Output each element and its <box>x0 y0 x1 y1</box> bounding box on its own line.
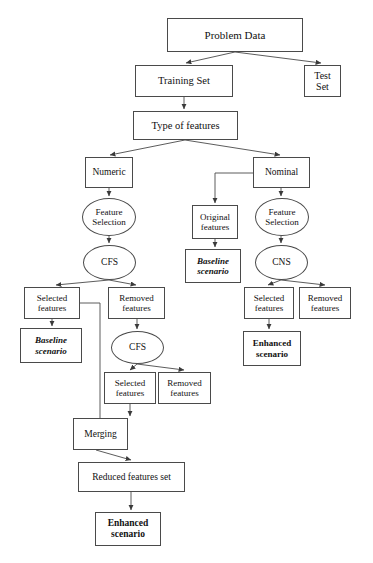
node-label-rem_feat_cfs2: Removedfeatures <box>165 378 204 398</box>
node-label-rem_feat_cns: Removedfeatures <box>306 293 345 313</box>
node-rem_feat_cns: Removedfeatures <box>299 287 351 319</box>
node-merging: Merging <box>73 418 128 450</box>
node-label-fs_numeric: FeatureSelection <box>90 207 128 227</box>
node-label-baseline_nominal: Baselinescenario <box>195 256 231 276</box>
edge-cns-to-removed <box>281 280 325 285</box>
node-label-reduced_features: Reduced features set <box>90 472 173 483</box>
node-label-nominal: Nominal <box>263 167 300 178</box>
node-label-training_set: Training Set <box>156 75 212 87</box>
edge-cfs1-to-removed <box>109 280 136 285</box>
edge-cfs2-to-selected <box>130 364 137 370</box>
node-label-sel_feat_cfs2: Selectedfeatures <box>113 378 148 398</box>
node-baseline_nominal: Baselinescenario <box>185 249 241 283</box>
node-label-enhanced_numeric: Enhancedscenario <box>106 518 151 539</box>
node-label-cfs_2: CFS <box>127 342 148 353</box>
node-fs_numeric: FeatureSelection <box>82 198 136 236</box>
node-label-fs_nominal: FeatureSelection <box>263 207 301 227</box>
node-cfs_1: CFS <box>83 245 136 280</box>
node-type_of_features: Type of features <box>133 111 238 140</box>
node-label-rem_feat_cfs1: Removedfeatures <box>117 293 156 313</box>
edge-nominal-to-original <box>215 173 253 203</box>
node-rem_feat_cfs1: Removedfeatures <box>108 287 165 319</box>
edge-selected1-to-merging <box>80 303 126 430</box>
node-problem_data: Problem Data <box>167 18 303 52</box>
node-sel_feat_cfs1: Selectedfeatures <box>24 287 80 319</box>
node-reduced_features: Reduced features set <box>78 462 185 492</box>
node-rem_feat_cfs2: Removedfeatures <box>158 372 211 404</box>
node-label-merging: Merging <box>82 429 119 440</box>
node-label-enhanced_nominal: Enhancedscenario <box>251 338 294 358</box>
node-label-original_features: Originalfeatures <box>198 212 232 232</box>
node-label-sel_feat_cns: Selectedfeatures <box>252 293 287 313</box>
edge-type-to-nominal <box>185 140 280 155</box>
node-label-numeric: Numeric <box>90 167 127 178</box>
node-label-test_set: TestSet <box>312 70 333 92</box>
node-sel_feat_cfs2: Selectedfeatures <box>104 372 156 404</box>
node-nominal: Nominal <box>253 157 310 188</box>
node-baseline_numeric: Baselinescenario <box>20 328 82 363</box>
node-label-cfs_1: CFS <box>99 257 120 268</box>
node-cfs_2: CFS <box>111 331 164 364</box>
node-label-baseline_numeric: Baselinescenario <box>33 335 69 355</box>
node-label-type_of_features: Type of features <box>149 120 221 132</box>
edge-problem-to-training <box>186 52 235 63</box>
edge-cfs2-to-removed <box>137 364 184 370</box>
node-original_features: Originalfeatures <box>192 205 238 239</box>
node-numeric: Numeric <box>85 157 133 188</box>
node-test_set: TestSet <box>304 65 341 97</box>
node-enhanced_numeric: Enhancedscenario <box>95 512 161 546</box>
node-label-cns: CNS <box>270 257 292 268</box>
edge-cfs1-to-selected <box>56 280 109 285</box>
node-training_set: Training Set <box>135 65 233 97</box>
node-sel_feat_cns: Selectedfeatures <box>244 287 294 319</box>
edge-cns-to-selected <box>268 280 281 285</box>
node-label-problem_data: Problem Data <box>203 29 268 41</box>
edge-merging-to-reduced <box>96 450 131 460</box>
edge-problem-to-test <box>235 52 321 63</box>
node-cns: CNS <box>255 245 308 280</box>
edge-type-to-numeric <box>110 140 185 155</box>
flowchart-diagram: Problem DataTraining SetTestSetType of f… <box>0 0 373 563</box>
node-fs_nominal: FeatureSelection <box>255 198 309 236</box>
node-enhanced_nominal: Enhancedscenario <box>243 331 301 366</box>
node-label-sel_feat_cfs1: Selectedfeatures <box>35 293 70 313</box>
